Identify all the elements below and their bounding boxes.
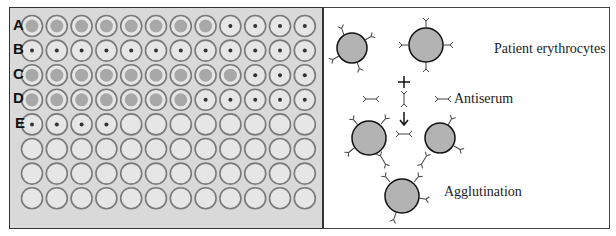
well-h11 — [270, 188, 291, 209]
well-b4 — [96, 40, 117, 61]
well-h12 — [294, 188, 315, 209]
well-e5 — [121, 114, 142, 135]
well-h8 — [195, 188, 216, 209]
well-d3 — [71, 89, 92, 110]
well-b3 — [71, 40, 92, 61]
well-a7 — [170, 16, 191, 37]
well-a9 — [220, 16, 241, 37]
well-a12 — [294, 16, 315, 37]
well-c5 — [121, 65, 142, 86]
row-label-a: A — [13, 16, 24, 33]
well-a3 — [71, 16, 92, 37]
well-b2 — [46, 40, 67, 61]
well-b1 — [22, 40, 43, 61]
label-antiserum: Antiserum — [454, 91, 513, 107]
well-h9 — [220, 188, 241, 209]
well-b8 — [195, 40, 216, 61]
well-c8 — [195, 65, 216, 86]
well-d1 — [22, 89, 43, 110]
row-label-c: C — [13, 65, 24, 82]
well-a2 — [46, 16, 67, 37]
well-g10 — [245, 163, 266, 184]
well-g8 — [195, 163, 216, 184]
well-a8 — [195, 16, 216, 37]
well-f3 — [71, 139, 92, 160]
well-c6 — [146, 65, 167, 86]
row-label-d: D — [13, 89, 24, 106]
well-f1 — [22, 139, 43, 160]
well-d9 — [220, 89, 241, 110]
well-f7 — [170, 139, 191, 160]
agglutination-diagram: Patient erythrocytes Antiserum Agglutina… — [323, 7, 610, 229]
well-f11 — [270, 139, 291, 160]
well-d10 — [245, 89, 266, 110]
figure: A B C D E — [0, 0, 616, 236]
well-b5 — [121, 40, 142, 61]
well-h4 — [96, 188, 117, 209]
well-f8 — [195, 139, 216, 160]
well-c7 — [170, 65, 191, 86]
microplate-wells — [10, 8, 324, 230]
erythrocyte-top-left — [329, 25, 375, 73]
well-c12 — [294, 65, 315, 86]
well-f5 — [121, 139, 142, 160]
well-d7 — [170, 89, 191, 110]
erythrocyte-top-right — [399, 18, 453, 72]
well-a10 — [245, 16, 266, 37]
well-c10 — [245, 65, 266, 86]
well-g11 — [270, 163, 291, 184]
well-f10 — [245, 139, 266, 160]
label-patient-erythrocytes: Patient erythrocytes — [494, 41, 606, 57]
well-d12 — [294, 89, 315, 110]
well-g6 — [146, 163, 167, 184]
well-e2 — [46, 114, 67, 135]
well-h3 — [71, 188, 92, 209]
well-a11 — [270, 16, 291, 37]
well-e8 — [195, 114, 216, 135]
well-h1 — [22, 188, 43, 209]
well-f4 — [96, 139, 117, 160]
well-a1 — [22, 16, 43, 37]
well-a4 — [96, 16, 117, 37]
well-g7 — [170, 163, 191, 184]
well-f9 — [220, 139, 241, 160]
well-d2 — [46, 89, 67, 110]
well-g2 — [46, 163, 67, 184]
well-e11 — [270, 114, 291, 135]
well-h7 — [170, 188, 191, 209]
well-g12 — [294, 163, 315, 184]
well-b7 — [170, 40, 191, 61]
well-e9 — [220, 114, 241, 135]
label-agglutination: Agglutination — [444, 184, 522, 200]
row-label-e: E — [15, 114, 25, 131]
well-c9 — [220, 65, 241, 86]
well-h5 — [121, 188, 142, 209]
well-c11 — [270, 65, 291, 86]
well-g9 — [220, 163, 241, 184]
plus-icon — [398, 76, 410, 88]
well-g3 — [71, 163, 92, 184]
microplate-photo: A B C D E — [9, 7, 323, 229]
row-label-b: B — [13, 40, 24, 57]
well-c4 — [96, 65, 117, 86]
well-e4 — [96, 114, 117, 135]
well-c1 — [22, 65, 43, 86]
well-d11 — [270, 89, 291, 110]
well-e3 — [71, 114, 92, 135]
well-e6 — [146, 114, 167, 135]
well-d5 — [121, 89, 142, 110]
well-h10 — [245, 188, 266, 209]
well-e12 — [294, 114, 315, 135]
well-d4 — [96, 89, 117, 110]
well-d6 — [146, 89, 167, 110]
well-f6 — [146, 139, 167, 160]
well-h2 — [46, 188, 67, 209]
well-g5 — [121, 163, 142, 184]
down-arrow-icon — [400, 112, 408, 125]
well-b11 — [270, 40, 291, 61]
well-c2 — [46, 65, 67, 86]
well-c3 — [71, 65, 92, 86]
antiserum-antibodies — [363, 91, 451, 107]
well-a5 — [121, 16, 142, 37]
well-b6 — [146, 40, 167, 61]
